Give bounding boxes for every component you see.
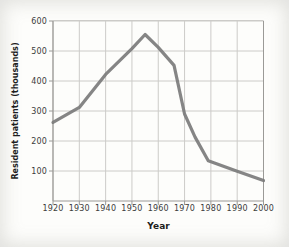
y-tick-label: 600 bbox=[13, 16, 47, 27]
x-axis-title: Year bbox=[53, 221, 264, 231]
line-chart: 100200300400500600 192019301940195019601… bbox=[0, 0, 289, 247]
y-axis-title: Resident patients (thousands) bbox=[11, 36, 21, 186]
x-tick-label: 2000 bbox=[249, 204, 279, 214]
figure-background: 100200300400500600 192019301940195019601… bbox=[0, 0, 289, 247]
